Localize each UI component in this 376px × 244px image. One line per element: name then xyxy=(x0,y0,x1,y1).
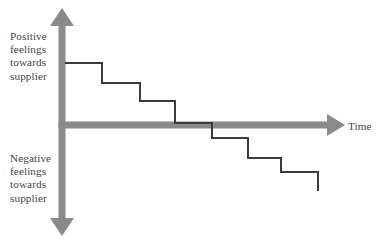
arrow-up-icon xyxy=(50,8,74,26)
time-axis xyxy=(59,114,346,136)
time-axis-label: Time xyxy=(348,120,376,133)
positive-feelings-label: Positive feelings towards supplier xyxy=(10,30,68,83)
arrow-down-icon xyxy=(50,218,74,236)
arrow-right-icon xyxy=(327,114,345,136)
negative-feelings-label: Negative feelings towards supplier xyxy=(10,152,68,205)
feelings-over-time-diagram: Positive feelings towards supplier Negat… xyxy=(0,0,376,244)
